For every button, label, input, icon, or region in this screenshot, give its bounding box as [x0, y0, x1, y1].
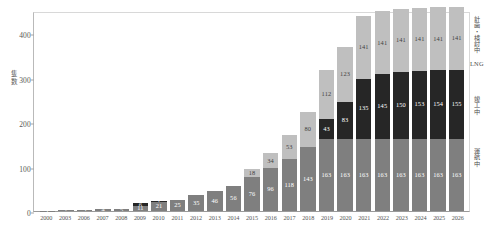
bar-segment-ordered: 153	[412, 71, 427, 139]
bar-value-label: 154	[433, 101, 443, 107]
bar-column: 163135141	[354, 13, 373, 211]
x-tick-label: 2010	[149, 214, 168, 221]
x-tick-label: 2009	[131, 214, 150, 221]
bar-segment-planned: 141	[430, 7, 445, 70]
bar-value-label: 141	[433, 36, 443, 42]
bar-segment-ordered: 83	[337, 102, 352, 139]
x-tick-label: 2024	[411, 214, 430, 221]
bar-stack: 163153141	[412, 8, 427, 211]
bar-stack: 16383123	[337, 47, 352, 211]
x-axis-ticks: 2000200320062007200820092010201120122013…	[33, 214, 470, 221]
bar-column: 7618	[243, 13, 262, 211]
bar-value-label: 141	[377, 40, 387, 46]
bar-stack: 14380	[300, 112, 315, 211]
bar-stack: 163135141	[356, 16, 371, 211]
bar-column: 3	[75, 13, 94, 211]
x-tick-label: 2013	[205, 214, 224, 221]
bar-column: 25	[168, 13, 187, 211]
bar-column: 5	[112, 13, 131, 211]
x-tick-label: 2022	[374, 214, 393, 221]
bar-segment-planned: 141	[449, 7, 464, 70]
bar-column: 163150141	[392, 13, 411, 211]
bar-stack: 9634	[263, 153, 278, 211]
bar-segment-operating: 143	[300, 147, 315, 211]
bar-column: 9634	[261, 13, 280, 211]
x-tick-label: 2026	[448, 214, 467, 221]
legend-label-operating: 運航中	[473, 148, 480, 167]
bar-value-label: 53	[286, 144, 293, 150]
bar-stack: 25	[170, 200, 185, 211]
bar-value-label: 56	[230, 195, 237, 201]
bar-value-label: 163	[433, 172, 443, 178]
bar-stack: 4	[95, 209, 110, 211]
x-tick-label: 2007	[93, 214, 112, 221]
bar-segment-operating: 5	[114, 209, 129, 211]
bar-value-label: 143	[303, 176, 313, 182]
bar-stack: 16343112	[319, 70, 334, 211]
bar-segment-planned: 141	[375, 11, 390, 74]
bar-value-label: 80	[305, 126, 312, 132]
bar-column: 16383123	[336, 13, 355, 211]
bar-value-label: 5	[120, 209, 123, 211]
x-tick-label: 2017	[280, 214, 299, 221]
bar-column: 1	[38, 13, 57, 211]
bar-segment-operating: 163	[449, 139, 464, 211]
bar-value-label: 46	[211, 198, 218, 204]
bar-segment-operating: 11	[133, 206, 148, 211]
bar-stack: 5	[114, 209, 129, 211]
bar-value-label: 112	[322, 91, 332, 97]
bar-column: 14380	[299, 13, 318, 211]
bar-segment-operating: 56	[226, 186, 241, 211]
bar-value-label: 135	[359, 105, 369, 111]
bar-segment-operating: 46	[207, 191, 222, 211]
bar-segment-operating: 21	[151, 202, 166, 211]
x-tick-label: 2008	[112, 214, 131, 221]
legend-label-lng: LNG	[470, 60, 484, 67]
bar-segment-operating: 3	[77, 210, 92, 211]
bar-segment-operating: 163	[375, 139, 390, 211]
bar-value-label: 163	[396, 172, 406, 178]
bar-value-label: 3	[83, 210, 86, 211]
x-tick-label: 2000	[37, 214, 56, 221]
x-tick-label: 2003	[56, 214, 75, 221]
bar-segment-operating: 163	[337, 139, 352, 211]
x-tick-label: 2012	[187, 214, 206, 221]
bar-stack: 7618	[244, 169, 259, 211]
bar-value-label: 141	[359, 44, 369, 50]
bar-value-label: 34	[267, 158, 274, 164]
y-tick-label: 300	[19, 75, 31, 84]
bar-column: 163154141	[429, 13, 448, 211]
bar-value-label: 96	[267, 186, 274, 192]
bar-value-label: 2	[64, 210, 67, 211]
x-tick-label: 2006	[74, 214, 93, 221]
bar-stack: 35	[188, 195, 203, 211]
bar-segment-planned: 80	[300, 112, 315, 148]
bar-segment-operating: 163	[393, 139, 408, 211]
bar-stack: 163150141	[393, 9, 408, 211]
bar-column: 163155141	[447, 13, 466, 211]
bar-segment-operating: 2	[58, 210, 73, 211]
bar-column: 4	[94, 13, 113, 211]
bar-stack: 116	[133, 203, 148, 211]
x-tick-label: 2023	[392, 214, 411, 221]
bar-value-label: 43	[323, 126, 330, 132]
bar-stack: 163154141	[430, 7, 445, 211]
bar-segment-ordered: 145	[375, 74, 390, 138]
x-tick-label: 2020	[336, 214, 355, 221]
bar-segment-planned: 53	[282, 135, 297, 159]
bar-segment-operating: 163	[430, 139, 445, 211]
bar-value-label: 11	[137, 206, 143, 211]
lng-fueled-vessel-chart: 隻数 0100200300400 12345116211253546567618…	[0, 0, 492, 233]
bar-segment-ordered: 43	[319, 119, 334, 138]
bar-segment-ordered: 154	[430, 70, 445, 138]
bar-value-label: 141	[452, 35, 462, 41]
bar-segment-planned: 123	[337, 47, 352, 102]
x-tick-label: 2025	[430, 214, 449, 221]
bar-segment-operating: 4	[95, 209, 110, 211]
bar-segment-planned: 141	[393, 9, 408, 72]
bar-column: 16343112	[317, 13, 336, 211]
bar-column: 35	[187, 13, 206, 211]
plot-area: 0100200300400 12345116211253546567618963…	[33, 12, 470, 212]
bar-value-label: 163	[322, 172, 332, 178]
x-tick-label: 2011	[168, 214, 187, 221]
